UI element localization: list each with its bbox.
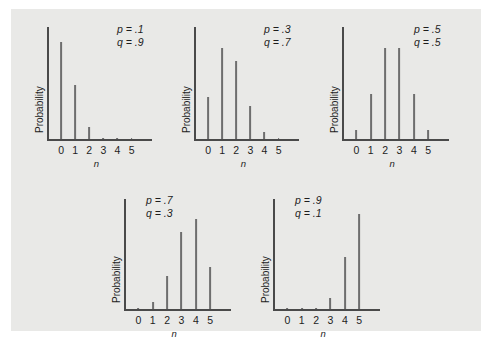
x-axis-tick-labels: 012345 <box>273 313 380 327</box>
y-axis-title: Probability <box>329 86 340 133</box>
tick-label: 4 <box>193 313 199 327</box>
probability-plot: 012345nProbabilityp = .3q = .7 <box>194 27 299 141</box>
tick-label: 1 <box>72 143 78 157</box>
tick-label: 4 <box>411 143 417 157</box>
tick-label: 1 <box>299 313 305 327</box>
bar-group <box>273 197 380 309</box>
bar <box>384 48 386 139</box>
tick-label: 0 <box>135 313 141 327</box>
bar <box>249 106 251 140</box>
parameter-annotation-line: q = .7 <box>264 36 291 49</box>
probability-plot: 012345nProbabilityp = .5q = .5 <box>342 27 449 141</box>
bar <box>207 97 209 140</box>
tick-label: 3 <box>397 143 403 157</box>
tick-label: 3 <box>100 143 106 157</box>
bar <box>152 302 154 309</box>
bar <box>301 308 303 310</box>
y-axis-title: Probability <box>181 86 192 133</box>
probability-plot: 012345nProbabilityp = .9q = .1 <box>273 199 380 311</box>
bar <box>344 257 346 310</box>
x-axis-line <box>194 139 299 141</box>
parameter-annotation-line: p = .3 <box>264 23 291 36</box>
tick-label: 2 <box>233 143 239 157</box>
parameter-annotation-line: q = .5 <box>414 36 441 49</box>
tick-label: 5 <box>356 313 362 327</box>
x-axis-tick-labels: 012345 <box>47 143 152 157</box>
bar <box>278 138 280 140</box>
probability-plot: 012345nProbabilityp = .7q = .3 <box>124 199 231 311</box>
bar <box>209 267 211 309</box>
x-axis-tick-labels: 012345 <box>124 313 231 327</box>
bar <box>286 308 288 310</box>
y-axis-title: Probability <box>260 256 271 303</box>
tick-label: 4 <box>262 143 268 157</box>
bar <box>137 308 139 310</box>
tick-label: 5 <box>207 313 213 327</box>
bar <box>399 48 401 139</box>
parameter-annotation: p = .9q = .1 <box>295 194 322 219</box>
x-axis-title: n <box>172 328 177 339</box>
x-axis-tick-labels: 012345 <box>194 143 299 157</box>
x-axis-line <box>342 139 449 141</box>
tick-label: 2 <box>382 143 388 157</box>
tick-label: 3 <box>328 313 334 327</box>
parameter-annotation-line: q = .9 <box>117 36 144 49</box>
bar <box>181 232 183 309</box>
tick-label: 2 <box>164 313 170 327</box>
parameter-annotation: p = .1q = .9 <box>117 23 144 48</box>
tick-label: 5 <box>276 143 282 157</box>
parameter-annotation-line: q = .1 <box>295 207 322 220</box>
parameter-annotation: p = .3q = .7 <box>264 23 291 48</box>
bar-group <box>124 197 231 309</box>
parameter-annotation-line: p = .1 <box>117 23 144 36</box>
tick-label: 0 <box>58 143 64 157</box>
x-axis-tick-labels: 012345 <box>342 143 449 157</box>
tick-label: 4 <box>115 143 121 157</box>
bar <box>330 298 332 310</box>
bar <box>74 85 76 139</box>
bar <box>264 132 266 139</box>
tick-label: 1 <box>150 313 156 327</box>
probability-plot: 012345nProbabilityp = .1q = .9 <box>47 27 152 141</box>
x-axis-title: n <box>390 158 395 169</box>
bar <box>315 308 317 310</box>
bar <box>235 61 237 140</box>
tick-label: 3 <box>179 313 185 327</box>
x-axis-line <box>273 309 380 311</box>
tick-label: 0 <box>284 313 290 327</box>
bar <box>88 127 90 139</box>
bar <box>427 130 429 139</box>
x-axis-title: n <box>241 158 246 169</box>
bar <box>102 138 104 140</box>
tick-label: 5 <box>425 143 431 157</box>
tick-label: 0 <box>205 143 211 157</box>
y-axis-title: Probability <box>111 256 122 303</box>
bar <box>413 94 415 139</box>
y-axis-title: Probability <box>34 86 45 133</box>
bar <box>117 138 119 140</box>
x-axis-title: n <box>94 158 99 169</box>
tick-label: 1 <box>219 143 225 157</box>
parameter-annotation-line: q = .3 <box>146 207 173 220</box>
figure-panel: 012345nProbabilityp = .1q = .9012345nPro… <box>11 9 481 331</box>
bar <box>221 48 223 140</box>
tick-label: 3 <box>247 143 253 157</box>
tick-label: 4 <box>342 313 348 327</box>
parameter-annotation-line: p = .7 <box>146 194 173 207</box>
bar <box>355 130 357 139</box>
parameter-annotation-line: p = .9 <box>295 194 322 207</box>
x-axis-line <box>124 309 231 311</box>
bar <box>60 42 62 139</box>
tick-label: 2 <box>313 313 319 327</box>
parameter-annotation: p = .7q = .3 <box>146 194 173 219</box>
parameter-annotation: p = .5q = .5 <box>414 23 441 48</box>
parameter-annotation-line: p = .5 <box>414 23 441 36</box>
tick-label: 5 <box>129 143 135 157</box>
tick-label: 0 <box>353 143 359 157</box>
bar <box>358 214 360 309</box>
bar <box>131 138 133 140</box>
x-axis-line <box>47 139 152 141</box>
bar <box>195 219 197 309</box>
bar <box>166 276 168 309</box>
tick-label: 1 <box>368 143 374 157</box>
